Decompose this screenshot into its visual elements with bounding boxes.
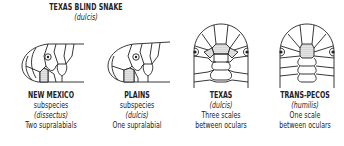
- eye-icon: [245, 50, 248, 53]
- caption-heading: PLAINS: [103, 91, 170, 101]
- eye-icon: [193, 50, 196, 53]
- caption-plains: PLAINS subspecies (dulcis) One supralabi…: [94, 91, 180, 131]
- caption-heading: NEW MEXICO: [17, 91, 84, 101]
- caption-texas: TEXAS (dulcis) Three scales between ocul…: [178, 91, 264, 131]
- eye-icon: [331, 50, 334, 53]
- caption-line: One scale: [271, 111, 338, 121]
- caption-line: between oculars: [187, 121, 254, 131]
- caption-heading: TEXAS: [187, 91, 254, 101]
- caption-scientific-name: (dissectus): [17, 111, 84, 121]
- snake-head-dorsal-texas: [190, 22, 252, 88]
- caption-scientific-name: (dulcis): [103, 111, 170, 121]
- caption-line: subspecies: [103, 101, 170, 111]
- diagram-title: TEXAS BLIND SNAKE: [19, 3, 153, 12]
- caption-scientific-name: (humilis): [271, 101, 338, 111]
- caption-line: between oculars: [271, 121, 338, 131]
- snake-head-lateral-new-mexico: [18, 38, 86, 86]
- snake-head-lateral-plains: [104, 38, 172, 86]
- caption-new-mexico: NEW MEXICO subspecies (dissectus) Two su…: [8, 91, 94, 131]
- caption-line: subspecies: [17, 101, 84, 111]
- caption-scientific-name: (dulcis): [187, 101, 254, 111]
- caption-line: Two supralabials: [17, 121, 84, 131]
- caption-trans-pecos: TRANS-PECOS (humilis) One scale between …: [262, 91, 344, 131]
- eye-icon: [279, 50, 282, 53]
- snake-head-dorsal-trans-pecos: [276, 22, 338, 88]
- caption-line: Three scales: [187, 111, 254, 121]
- diagram-subtitle: (dulcis): [17, 13, 155, 22]
- caption-heading: TRANS-PECOS: [271, 91, 338, 101]
- caption-line: One supralabial: [103, 121, 170, 131]
